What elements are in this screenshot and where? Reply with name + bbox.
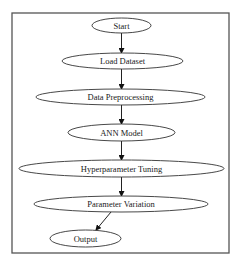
label-load-dataset: Load Dataset [100,56,146,66]
node-parameter-variation: Parameter Variation [34,196,208,212]
node-data-preprocessing: Data Preprocessing [36,89,205,105]
node-hyperparameter-tuning: Hyperparameter Tuning [19,160,224,177]
label-parameter-variation: Parameter Variation [87,199,155,209]
arrow-parameter-variation-to-output [96,212,111,230]
label-output: Output [74,234,98,244]
flowchart-diagram: StartLoad DatasetData PreprocessingANN M… [0,0,238,265]
label-data-preprocessing: Data Preprocessing [88,92,155,102]
label-hyperparameter-tuning: Hyperparameter Tuning [81,164,163,174]
label-ann-model: ANN Model [100,128,143,138]
node-load-dataset: Load Dataset [62,53,183,69]
node-start: Start [92,18,151,33]
node-output: Output [50,230,121,247]
node-ann-model: ANN Model [68,124,175,141]
label-start: Start [113,21,130,31]
